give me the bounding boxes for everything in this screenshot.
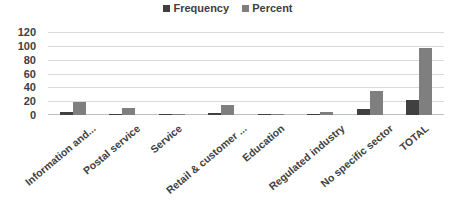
x-tick-label: Information and... xyxy=(22,122,97,188)
bar-percent xyxy=(320,112,333,115)
legend-label: Frequency xyxy=(173,2,229,14)
x-tick-label: Service xyxy=(148,122,184,155)
bar-frequency xyxy=(258,114,271,115)
bar-group xyxy=(197,32,247,115)
legend-swatch-percent xyxy=(242,5,249,12)
bar-frequency xyxy=(159,114,172,115)
bar-frequency xyxy=(60,112,73,115)
bar-group xyxy=(147,32,197,115)
bar-group xyxy=(296,32,346,115)
bar-percent xyxy=(271,114,284,115)
legend-label: Percent xyxy=(252,2,292,14)
bar-group xyxy=(48,32,98,115)
bar-group xyxy=(246,32,296,115)
bar-group xyxy=(345,32,395,115)
y-tick-label: 120 xyxy=(6,26,36,38)
x-tick-label: TOTAL xyxy=(397,122,431,153)
y-tick-label: 40 xyxy=(6,81,36,93)
bar-percent xyxy=(370,91,383,115)
chart-legend: Frequency Percent xyxy=(0,0,456,16)
bar-group xyxy=(98,32,148,115)
bar-percent xyxy=(73,102,86,115)
bar-percent xyxy=(419,48,432,115)
y-tick-label: 100 xyxy=(6,40,36,52)
bar-frequency xyxy=(208,113,221,115)
y-tick-label: 80 xyxy=(6,54,36,66)
legend-item-frequency: Frequency xyxy=(163,0,229,16)
legend-item-percent: Percent xyxy=(242,0,292,16)
y-tick-label: 0 xyxy=(6,109,36,121)
y-tick-label: 20 xyxy=(6,95,36,107)
bar-frequency xyxy=(109,114,122,115)
bar-percent xyxy=(221,105,234,115)
bar-percent xyxy=(172,114,185,115)
bar-frequency xyxy=(357,109,370,115)
bar-group xyxy=(395,32,445,115)
legend-swatch-frequency xyxy=(163,5,170,12)
bar-frequency xyxy=(307,114,320,115)
bar-frequency xyxy=(406,100,419,115)
bar-percent xyxy=(122,108,135,115)
y-tick-label: 60 xyxy=(6,68,36,80)
plot-area xyxy=(48,32,444,115)
